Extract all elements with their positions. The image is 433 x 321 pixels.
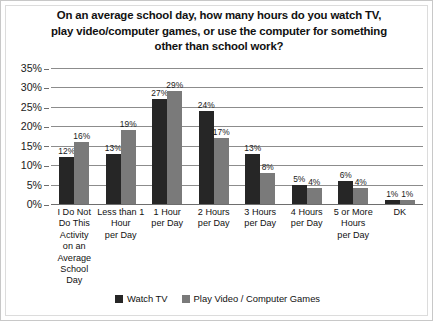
x-axis-category-label: 5 or MoreHoursper Day: [327, 207, 380, 241]
bar-value-label: 19%: [117, 119, 140, 129]
y-axis-tick-label: 25%: [21, 101, 49, 113]
x-axis-category-line: Activity: [48, 230, 101, 241]
bar-play-video-games: [400, 200, 415, 204]
x-axis-category-label: DK: [374, 207, 427, 218]
y-axis-tick-label: 35%: [21, 62, 49, 74]
y-axis-tick-label: 20%: [21, 120, 49, 132]
bar-watch-tv: [106, 154, 121, 205]
x-axis-category-line: per Day: [141, 218, 194, 229]
x-axis-category-label: 3 Hoursper Day: [234, 207, 287, 230]
x-axis-category-line: 5 or More: [327, 207, 380, 218]
chart-title-line: On an average school day, how many hours…: [29, 8, 409, 24]
chart-title-line: play video/computer games, or use the co…: [29, 24, 409, 40]
bar-play-video-games: [121, 130, 136, 204]
bar-play-video-games: [260, 173, 275, 204]
x-axis-category-line: School: [48, 264, 101, 275]
x-axis-category-label: 4 Hoursper Day: [281, 207, 334, 230]
bar-group: 13%8%: [237, 68, 284, 204]
x-axis-category-line: Day: [48, 275, 101, 286]
y-axis-tick-mark: [44, 166, 49, 167]
x-axis-category-label: Less than 1Hourper Day: [95, 207, 148, 241]
bar-play-video-games: [167, 91, 182, 204]
x-axis-category-labels: I Do NotDo ThisActivityon anAverageSchoo…: [51, 207, 423, 281]
bar-play-video-games: [214, 138, 229, 204]
x-axis-category-label: 2 Hoursper Day: [188, 207, 241, 230]
bar-watch-tv: [59, 157, 74, 204]
y-axis-tick-label: 5%: [27, 179, 49, 191]
x-axis-category-line: DK: [374, 207, 427, 218]
bar-value-label: 29%: [163, 80, 186, 90]
bar-play-video-games: [307, 188, 322, 204]
x-axis-category-line: Less than 1: [95, 207, 148, 218]
x-axis-category-label: 1 Hourper Day: [141, 207, 194, 230]
y-axis-tick-label: 10%: [21, 159, 49, 171]
y-axis: 0%5%10%15%20%25%30%35%: [15, 61, 49, 211]
x-axis-category-line: 3 Hours: [234, 207, 287, 218]
x-axis-category-line: I Do Not: [48, 207, 101, 218]
bar-group: 24%17%: [191, 68, 238, 204]
legend-label: Watch TV: [127, 293, 168, 304]
bars-layer: 12%16%13%19%27%29%24%17%13%8%5%4%6%4%1%1…: [51, 68, 423, 204]
x-axis-category-line: per Day: [327, 230, 380, 241]
y-axis-tick-mark: [44, 88, 49, 89]
legend-swatch-icon: [115, 295, 123, 303]
bar-watch-tv: [385, 200, 400, 204]
bar-watch-tv: [152, 99, 167, 204]
x-axis-category-line: per Day: [234, 218, 287, 229]
y-axis-tick-mark: [44, 205, 49, 206]
bar-play-video-games: [353, 188, 368, 204]
x-axis-category-line: 1 Hour: [141, 207, 194, 218]
bar-group: 5%4%: [284, 68, 331, 204]
x-axis-category-line: Do This: [48, 218, 101, 229]
chart-title-line: other than school work?: [29, 39, 409, 55]
gridline: [51, 204, 423, 205]
bar-value-label: 13%: [241, 143, 264, 153]
y-axis-tick-label: 30%: [21, 81, 49, 93]
legend-label: Play Video / Computer Games: [194, 293, 320, 304]
x-axis-category-label: I Do NotDo ThisActivityon anAverageSchoo…: [48, 207, 101, 287]
bar-watch-tv: [199, 111, 214, 204]
bar-value-label: 24%: [195, 100, 218, 110]
x-axis-category-line: Hours: [327, 218, 380, 229]
bar-group: 27%29%: [144, 68, 191, 204]
bar-value-label: 16%: [70, 131, 93, 141]
bar-value-label: 4%: [349, 177, 372, 187]
legend-item[interactable]: Play Video / Computer Games: [182, 293, 320, 304]
y-axis-tick-mark: [44, 185, 49, 186]
bar-group: 1%1%: [377, 68, 424, 204]
bar-value-label: 8%: [256, 162, 279, 172]
bar-value-label: 17%: [210, 127, 233, 137]
bar-group: 12%16%: [51, 68, 98, 204]
chart-legend: Watch TVPlay Video / Computer Games: [1, 293, 433, 304]
legend-item[interactable]: Watch TV: [115, 293, 168, 304]
bar-play-video-games: [74, 142, 89, 204]
y-axis-tick-mark: [44, 127, 49, 128]
x-axis-category-line: per Day: [188, 218, 241, 229]
y-axis-tick-mark: [44, 108, 49, 109]
x-axis-category-line: per Day: [281, 218, 334, 229]
y-axis-tick-mark: [44, 69, 49, 70]
bar-value-label: 4%: [303, 177, 326, 187]
x-axis-category-line: per Day: [95, 230, 148, 241]
bar-watch-tv: [292, 185, 307, 204]
y-axis-tick-label: 15%: [21, 140, 49, 152]
chart-title: On an average school day, how many hours…: [29, 8, 409, 55]
bar-value-label: 1%: [396, 189, 419, 199]
y-axis-tick-mark: [44, 146, 49, 147]
x-axis-category-line: 2 Hours: [188, 207, 241, 218]
x-axis-category-line: on an: [48, 241, 101, 252]
bar-group: 13%19%: [98, 68, 145, 204]
bar-group: 6%4%: [330, 68, 377, 204]
x-axis-category-line: Average: [48, 253, 101, 264]
x-axis-category-line: 4 Hours: [281, 207, 334, 218]
x-axis-category-line: Hour: [95, 218, 148, 229]
chart-frame: On an average school day, how many hours…: [0, 0, 433, 321]
y-axis-tick-label: 0%: [27, 198, 49, 210]
legend-swatch-icon: [182, 295, 190, 303]
